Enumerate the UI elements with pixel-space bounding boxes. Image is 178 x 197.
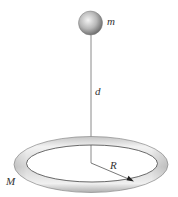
mass-label-m: m: [107, 16, 115, 27]
ring-point-mass-diagram: [0, 0, 178, 197]
ring: [0, 130, 178, 197]
radius-label-r: R: [110, 160, 117, 171]
distance-label-d: d: [95, 86, 101, 97]
ring-mass-label-m: M: [6, 176, 15, 187]
point-mass-sphere: [79, 11, 103, 35]
